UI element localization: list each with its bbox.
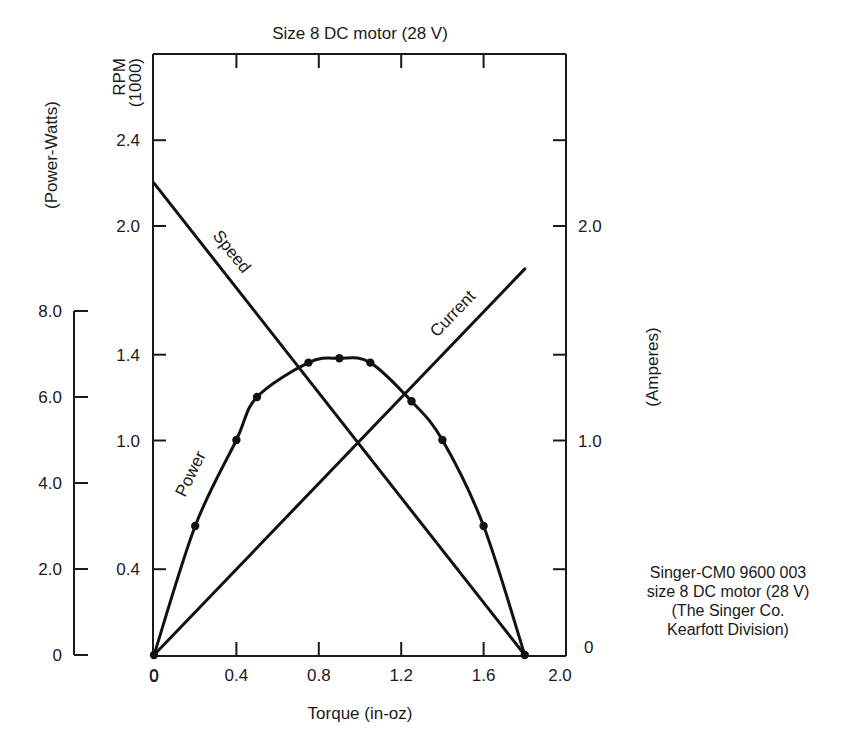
series-group xyxy=(150,183,529,659)
x-axis-torque: 00.40.81.21.62.0 xyxy=(149,642,572,685)
current-tick-label: 1.0 xyxy=(578,432,602,451)
rpm-axis-label: RPM (1000) xyxy=(110,58,145,107)
rpm-tick-label: 2.0 xyxy=(116,217,140,236)
data-point-marker xyxy=(191,522,199,530)
rpm-tick-label: 0.4 xyxy=(116,560,140,579)
current-tick-label: 2.0 xyxy=(578,217,602,236)
note-line: (The Singer Co. xyxy=(612,601,844,620)
rpm-tick-label: 1.0 xyxy=(116,432,140,451)
x-tick-label: 0.8 xyxy=(307,666,331,685)
data-point-marker xyxy=(253,393,261,401)
x-tick-label: 1.2 xyxy=(389,666,413,685)
data-point-marker xyxy=(335,354,343,362)
power-tick-label: 4.0 xyxy=(38,474,62,493)
power-tick-label: 2.0 xyxy=(38,560,62,579)
y-axis-current: 01.02.0 xyxy=(553,140,602,657)
x-tick-label: 2.0 xyxy=(548,666,572,685)
data-point-marker xyxy=(407,397,415,405)
series-speed-line xyxy=(154,183,525,655)
data-point-marker xyxy=(479,522,487,530)
power-tick-label: 0 xyxy=(53,646,62,665)
svg-text:(1000): (1000) xyxy=(126,58,145,107)
origin-label: 0 xyxy=(149,667,158,686)
data-point-marker xyxy=(366,358,374,366)
current-axis-label: (Amperes) xyxy=(643,327,662,406)
source-note: Singer-CM0 9600 003 size 8 DC motor (28 … xyxy=(612,563,844,639)
series-label-power: Power xyxy=(172,448,210,500)
x-tick-label: 0.4 xyxy=(225,666,249,685)
note-line: Kearfott Division) xyxy=(612,620,844,639)
x-axis-label: Torque (in-oz) xyxy=(308,704,413,723)
power-tick-label: 8.0 xyxy=(38,302,62,321)
plot-frame xyxy=(153,54,566,656)
series-power-line xyxy=(154,358,525,655)
current-tick-label: 0 xyxy=(584,638,593,657)
series-label-current: Current xyxy=(426,287,479,341)
power-tick-label: 6.0 xyxy=(38,388,62,407)
power-axis-label: (Power-Watts) xyxy=(42,101,61,209)
y-axis-power: 02.04.06.08.0 xyxy=(38,302,88,665)
rpm-tick-label: 1.4 xyxy=(116,346,140,365)
series-current-line xyxy=(154,269,525,655)
note-line: size 8 DC motor (28 V) xyxy=(612,582,844,601)
note-line: Singer-CM0 9600 003 xyxy=(612,563,844,582)
y-axis-rpm: 0.41.01.42.02.40 xyxy=(116,131,166,686)
data-point-marker xyxy=(150,651,158,659)
chart-title: Size 8 DC motor (28 V) xyxy=(272,24,448,43)
series-label-speed: Speed xyxy=(209,227,255,277)
rpm-tick-label: 2.4 xyxy=(116,131,140,150)
x-tick-label: 1.6 xyxy=(472,666,496,685)
data-point-marker xyxy=(304,358,312,366)
data-point-marker xyxy=(521,651,529,659)
data-point-marker xyxy=(232,436,240,444)
top-axis-ticks xyxy=(236,54,483,68)
data-point-marker xyxy=(438,436,446,444)
